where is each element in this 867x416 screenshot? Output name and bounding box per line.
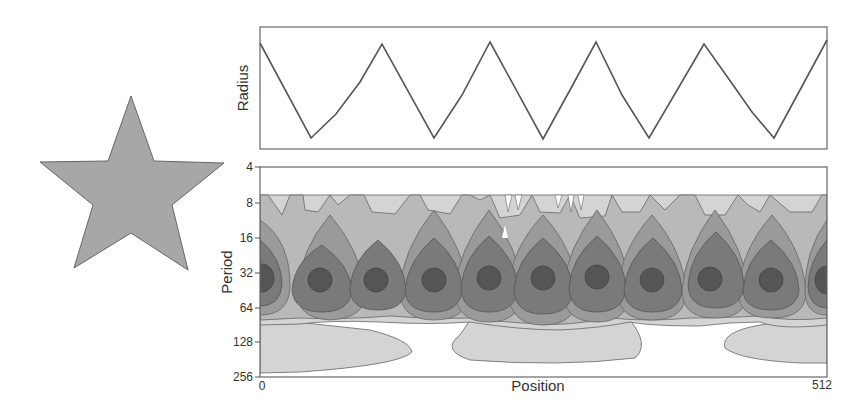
x-tick-label-start: 0 — [259, 379, 266, 393]
figure-canvas: Radius — [0, 0, 867, 416]
tick-label: 256 — [233, 370, 253, 384]
star-shape — [40, 96, 224, 270]
x-tick-label-end: 512 — [812, 378, 832, 392]
contour-fill — [250, 195, 839, 373]
tick-label: 4 — [246, 160, 253, 174]
tick-label: 16 — [240, 231, 254, 245]
tick-label: 128 — [233, 335, 253, 349]
period-axis-label: Period — [218, 250, 235, 293]
period-tick-labels: 4 8 16 32 64 128 256 — [233, 160, 253, 384]
radius-panel: Radius — [234, 27, 827, 149]
period-y-axis — [255, 167, 260, 377]
wavelet-panel: 4 8 16 32 64 128 256 Period 0 512 Positi… — [218, 160, 839, 394]
position-axis-label: Position — [511, 377, 564, 394]
radius-frame — [260, 27, 827, 149]
tick-label: 8 — [246, 196, 253, 210]
tick-label: 64 — [240, 301, 254, 315]
radius-axis-label: Radius — [234, 65, 251, 112]
tick-label: 32 — [240, 266, 254, 280]
